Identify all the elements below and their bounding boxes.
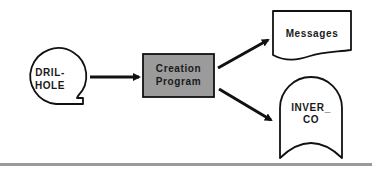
messages-node: Messages (273, 11, 351, 60)
inverco-node: INVER_ CO (280, 77, 342, 158)
inverco-label-line1: INVER_ (291, 102, 331, 113)
drilhole-label-line2: HOLE (35, 80, 65, 91)
drilhole-node: DRIL- HOLE (30, 48, 86, 104)
program-label-line2: Program (156, 76, 201, 87)
drilhole-label-line1: DRIL- (35, 67, 65, 78)
arrow-program-to-inverco (219, 89, 271, 120)
bottom-divider (0, 163, 372, 166)
flowchart-canvas: DRIL- HOLE Creation Program Messages INV… (0, 0, 372, 173)
messages-label: Messages (286, 28, 339, 39)
inverco-label-line2: CO (303, 114, 319, 125)
creation-program-node: Creation Program (143, 54, 214, 97)
arrow-program-to-messages (218, 40, 268, 68)
program-label-line1: Creation (156, 63, 201, 74)
